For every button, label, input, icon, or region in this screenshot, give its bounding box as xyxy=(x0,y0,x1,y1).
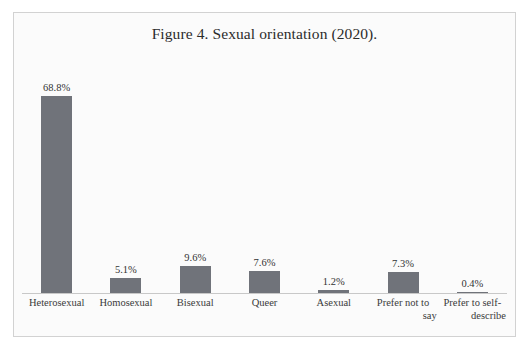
x-axis-label-prefer-not-to-say: Prefer not to say xyxy=(368,297,437,322)
bar-value-label: 5.1% xyxy=(115,264,137,275)
chart-title: Figure 4. Sexual orientation (2020). xyxy=(14,25,515,43)
x-axis-labels: Heterosexual Homosexual Bisexual Queer A… xyxy=(22,297,507,322)
bar-group-heterosexual: 68.8% xyxy=(22,57,91,293)
bar-group-bisexual: 9.6% xyxy=(161,57,230,293)
plot-area: 68.8% 5.1% 9.6% 7.6% 1.2% 7.3% xyxy=(22,57,507,336)
bar-value-label: 7.3% xyxy=(392,258,414,269)
bar-rect[interactable] xyxy=(180,266,211,293)
label-line: Prefer not to xyxy=(369,297,436,310)
x-axis-label-prefer-to-self-describe: Prefer to self- describe xyxy=(438,297,507,322)
x-axis-label-homosexual: Homosexual xyxy=(91,297,160,310)
label-line: Prefer to self- xyxy=(439,297,506,310)
x-axis-label-asexual: Asexual xyxy=(299,297,368,310)
x-axis-label-heterosexual: Heterosexual xyxy=(22,297,91,310)
bar-group-asexual: 1.2% xyxy=(299,57,368,293)
label-line: describe xyxy=(439,310,506,323)
x-axis-label-queer: Queer xyxy=(230,297,299,310)
bar-value-label: 0.4% xyxy=(461,278,483,289)
bar-value-label: 1.2% xyxy=(323,276,345,287)
bar-group-homosexual: 5.1% xyxy=(91,57,160,293)
bar-rect[interactable] xyxy=(249,271,280,293)
bar-value-label: 9.6% xyxy=(184,252,206,263)
label-line: Homosexual xyxy=(99,297,152,308)
label-line: Asexual xyxy=(317,297,351,308)
label-line: Queer xyxy=(252,297,278,308)
bar-value-label: 68.8% xyxy=(43,82,70,93)
figure-frame: Figure 4. Sexual orientation (2020). 68.… xyxy=(13,12,516,337)
bar-rect[interactable] xyxy=(388,272,419,293)
bar-rect[interactable] xyxy=(41,96,72,293)
bar-group-queer: 7.6% xyxy=(230,57,299,293)
x-axis-label-bisexual: Bisexual xyxy=(161,297,230,310)
label-line: say xyxy=(369,310,436,323)
x-axis-line xyxy=(22,293,507,294)
bar-group-prefer-to-self-describe: 0.4% xyxy=(438,57,507,293)
bar-rect[interactable] xyxy=(110,278,141,293)
label-line: Bisexual xyxy=(177,297,214,308)
bar-value-label: 7.6% xyxy=(254,257,276,268)
bar-group-prefer-not-to-say: 7.3% xyxy=(368,57,437,293)
bar-series: 68.8% 5.1% 9.6% 7.6% 1.2% 7.3% xyxy=(22,57,507,293)
label-line: Heterosexual xyxy=(29,297,84,308)
